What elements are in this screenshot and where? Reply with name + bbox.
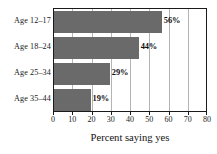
bar-1 [54, 37, 139, 58]
x-tick-label-20: 20 [88, 116, 96, 124]
bar-2 [54, 63, 110, 84]
x-axis-title: Percent saying yes [53, 133, 207, 144]
category-label-2: Age 25–34 [0, 69, 51, 77]
value-label-0: 56% [164, 17, 180, 25]
x-tick-label-0: 0 [51, 116, 55, 124]
category-label-1: Age 18–24 [0, 43, 51, 51]
x-tick-label-50: 50 [145, 116, 153, 124]
bar-chart: Age 12–17 Age 18–24 Age 25–34 Age 35–44 … [0, 0, 217, 154]
category-label-0: Age 12–17 [0, 17, 51, 25]
x-tick-label-60: 60 [165, 116, 173, 124]
bar-3 [54, 89, 91, 110]
value-label-1: 44% [141, 43, 157, 51]
value-label-2: 29% [112, 69, 128, 77]
plot-area [53, 8, 207, 112]
x-tick-label-70: 70 [184, 116, 192, 124]
category-label-3: Age 35–44 [0, 95, 51, 103]
x-tick-label-10: 10 [68, 116, 76, 124]
x-tick-label-30: 30 [107, 116, 115, 124]
gridline-70 [188, 9, 189, 111]
bar-0 [54, 11, 162, 32]
value-label-3: 19% [93, 95, 109, 103]
x-tick-label-80: 80 [203, 116, 211, 124]
x-tick-label-40: 40 [126, 116, 134, 124]
